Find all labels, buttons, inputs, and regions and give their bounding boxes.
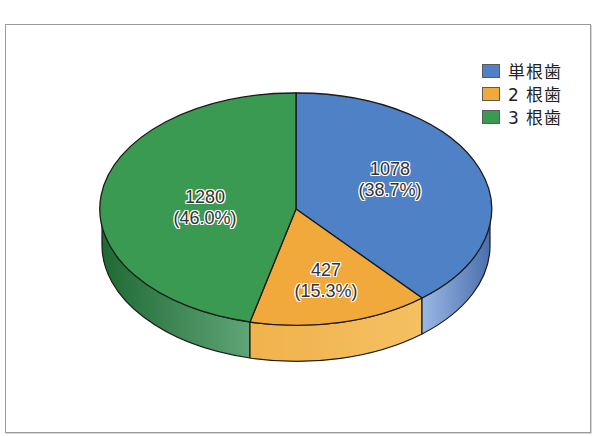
legend-item-3-root: 3 根歯 <box>482 105 562 128</box>
legend-item-single-root: 単根歯 <box>482 59 562 82</box>
legend: 単根歯 2 根歯 3 根歯 <box>482 59 562 128</box>
slice-label-3-root: 1280 (46.0%) <box>160 187 250 229</box>
legend-item-2-root: 2 根歯 <box>482 82 562 105</box>
slice-label-single-root: 1078 (38.7%) <box>345 159 435 201</box>
legend-swatch-icon <box>482 64 500 78</box>
legend-swatch-icon <box>482 110 500 124</box>
slice-label-2-root: 427 (15.3%) <box>281 260 371 302</box>
legend-swatch-icon <box>482 87 500 101</box>
